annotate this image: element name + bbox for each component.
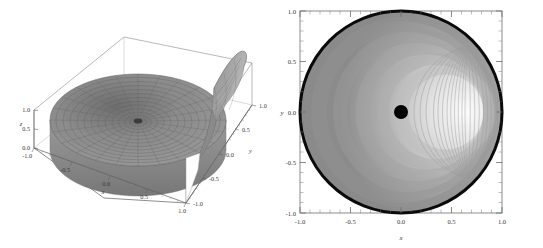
surface-plot-3d: 1.0 0.5 0.0 z (0, 0, 272, 248)
ztick-0-5: 0.5 (22, 125, 30, 132)
axis-label-z: z (19, 120, 23, 127)
c-xtick-0: 0.0 (397, 218, 406, 225)
c-axis-label-x: x (398, 234, 403, 242)
surface-singularity (134, 119, 142, 124)
ytick-1: 1.0 (259, 102, 267, 109)
c-ytick-0: 0.0 (288, 109, 297, 116)
c-xtick-1: 1.0 (498, 218, 507, 225)
xtick-0: 0.0 (102, 180, 110, 187)
c-axis-label-y: y (279, 109, 284, 117)
xtick-minus-1: -1.0 (22, 152, 32, 159)
ytick-0: 0.0 (226, 151, 234, 158)
axis-z: 1.0 0.5 0.0 z (19, 106, 38, 151)
ztick-1: 1.0 (22, 106, 30, 113)
axis-label-x: x (101, 188, 105, 195)
figure-container: 1.0 0.5 0.0 z (0, 0, 543, 248)
density-contour-plot: 1.0 0.5 0.0 -0.5 -1.0 y -1.0 -0.5 0.0 0.… (272, 0, 543, 248)
c-ytick-minus-0-5: -0.5 (286, 159, 297, 166)
xtick-minus-0-5: -0.5 (60, 166, 70, 173)
c-ytick-0-5: 0.5 (288, 58, 297, 65)
ztick-0: 0.0 (22, 144, 30, 151)
c-ytick-minus-1: -1.0 (286, 210, 297, 217)
c-xtick-0-5: 0.5 (447, 218, 456, 225)
xtick-0-5: 0.5 (140, 193, 148, 200)
ytick-0-5: 0.5 (242, 126, 250, 133)
xtick-1: 1.0 (178, 207, 186, 214)
singular-point-marker (394, 105, 408, 119)
c-ytick-1: 1.0 (288, 8, 297, 15)
axis-label-y: y (248, 147, 252, 154)
c-xtick-minus-1: -1.0 (295, 218, 306, 225)
c-xtick-minus-0-5: -0.5 (345, 218, 356, 225)
ytick-minus-1: -1.0 (193, 200, 203, 207)
ytick-minus-0-5: -0.5 (209, 175, 219, 182)
